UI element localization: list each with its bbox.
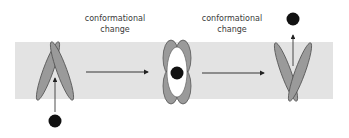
- conformational-change-label-1: conformational change: [85, 13, 145, 35]
- label-line-2: change: [85, 24, 145, 35]
- transport-diagram: conformational change conformational cha…: [0, 0, 349, 138]
- molecule-bound: [171, 67, 184, 80]
- label-line-2: change: [202, 24, 262, 35]
- molecule-incoming: [49, 115, 62, 128]
- conformational-change-label-2: conformational change: [202, 13, 262, 35]
- label-line-1: conformational: [85, 13, 145, 24]
- transporter-state-occluded: [163, 40, 191, 104]
- molecule-released: [287, 13, 300, 26]
- label-line-1: conformational: [202, 13, 262, 24]
- diagram-canvas: [0, 0, 349, 138]
